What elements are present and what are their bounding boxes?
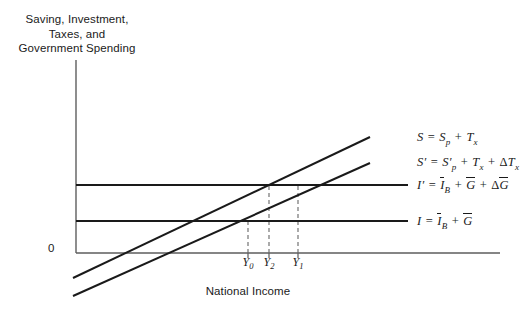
saving-term2-sub: x xyxy=(474,137,478,147)
curve-label-investment-shifted: I′ = IB + G + ΔG xyxy=(417,178,509,195)
saving-term1-sub: p xyxy=(446,137,451,147)
saving-shifted-plus-2: + xyxy=(487,155,496,169)
figure-canvas: Saving, Investment, Taxes, and Governmen… xyxy=(0,0,521,313)
saving-shifted-term3-base: T xyxy=(508,155,515,169)
saving-shifted-plus-1: + xyxy=(460,155,469,169)
investment-lhs: I xyxy=(417,214,421,228)
curve-label-saving-shifted: S′ = S′p + Tx + ΔTx xyxy=(417,155,519,172)
investment-shifted-term3-base: G xyxy=(500,178,509,193)
curve-saving-shifted xyxy=(73,163,370,296)
investment-equals: = xyxy=(425,214,434,228)
investment-term1-base: I xyxy=(437,214,441,229)
saving-shifted-term3-sub: x xyxy=(515,162,519,172)
investment-shifted-term1-sub: B xyxy=(445,185,451,195)
saving-shifted-term2-sub: x xyxy=(479,162,483,172)
investment-term1-sub: B xyxy=(442,221,448,231)
saving-equals: = xyxy=(427,130,436,144)
origin-label: 0 xyxy=(48,242,54,254)
investment-shifted-plus-2: + xyxy=(479,178,488,192)
investment-shifted-term1-base: I xyxy=(440,178,444,193)
saving-shifted-lhs-prime: ′ xyxy=(423,155,426,169)
investment-term2-base: G xyxy=(463,214,472,229)
saving-shifted-term1-sub: p xyxy=(452,162,457,172)
saving-lhs: S xyxy=(417,130,423,144)
investment-plus-1: + xyxy=(451,214,460,228)
curve-label-saving: S = Sp + Tx xyxy=(417,130,478,147)
saving-shifted-equals: = xyxy=(430,155,439,169)
x-axis-label: National Income xyxy=(178,285,318,297)
tick-label-y2-sub: 2 xyxy=(270,261,274,271)
saving-plus-1: + xyxy=(454,130,463,144)
tick-label-y1: Y1 xyxy=(283,255,313,271)
saving-term2-base: T xyxy=(466,130,473,144)
investment-shifted-delta-icon: Δ xyxy=(491,178,499,192)
saving-shifted-delta-icon: Δ xyxy=(500,155,508,169)
tick-label-y2: Y2 xyxy=(254,255,284,271)
investment-shifted-plus-1: + xyxy=(454,178,463,192)
tick-label-y0-sub: 0 xyxy=(249,261,253,271)
curve-label-investment: I = IB + G xyxy=(417,214,473,231)
tick-label-y1-sub: 1 xyxy=(299,261,303,271)
investment-shifted-term2-base: G xyxy=(466,178,475,193)
curve-saving xyxy=(73,137,370,278)
investment-shifted-equals: = xyxy=(428,178,437,192)
investment-shifted-lhs-prime: ′ xyxy=(421,178,424,192)
